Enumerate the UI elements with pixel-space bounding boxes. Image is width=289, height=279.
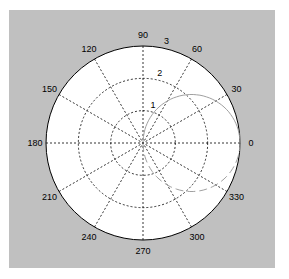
angle-tick-label: 60 — [192, 44, 202, 54]
radial-tick-label: 1 — [150, 100, 155, 110]
angle-tick-label: 240 — [81, 232, 96, 242]
angle-tick-label: 0 — [248, 138, 253, 148]
angle-tick-label: 120 — [81, 44, 96, 54]
radial-tick-label: 2 — [157, 68, 162, 78]
angle-tick-label: 270 — [135, 246, 150, 256]
angle-tick-label: 90 — [138, 30, 148, 40]
angle-tick-label: 150 — [42, 84, 57, 94]
angle-tick-label: 330 — [229, 192, 244, 202]
polar-plot: 0306090120150180210240270300330123 — [0, 0, 289, 279]
angle-tick-label: 30 — [232, 84, 242, 94]
radial-tick-label: 3 — [164, 36, 169, 46]
angle-tick-label: 180 — [27, 138, 42, 148]
angle-tick-label: 300 — [189, 232, 204, 242]
angle-tick-label: 210 — [42, 192, 57, 202]
